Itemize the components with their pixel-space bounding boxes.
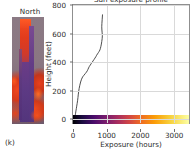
thermal-image xyxy=(12,17,44,124)
x-axis-label: Exposure (hours) xyxy=(72,140,190,149)
y-tick-mark xyxy=(70,33,73,34)
y-tick-label: 400 xyxy=(52,58,66,67)
x-gridline xyxy=(107,5,108,123)
y-tick-label: 200 xyxy=(52,86,66,95)
thermal-foreground-hotspots xyxy=(12,17,44,124)
y-tick-label: 800 xyxy=(52,1,66,10)
y-tick-mark xyxy=(70,90,73,91)
y-gridline xyxy=(73,62,189,63)
subfigure-label: (k) xyxy=(5,138,15,147)
y-gridline xyxy=(73,5,189,6)
x-gridline xyxy=(174,5,175,123)
x-tick-label: 1000 xyxy=(98,131,116,140)
y-gridline xyxy=(73,119,189,120)
photo-title: North xyxy=(0,7,60,16)
figure-panel-k: North (k) Sun exposure profile 010002000… xyxy=(0,0,195,158)
x-tick-label: 0 xyxy=(71,131,76,140)
x-tick-label: 2000 xyxy=(131,131,149,140)
y-tick-mark xyxy=(70,119,73,120)
y-axis-label: Height (feet) xyxy=(44,41,53,87)
y-gridline xyxy=(73,34,189,35)
sun-exposure-chart: Sun exposure profile 0100020003000020040… xyxy=(60,0,195,158)
y-tick-mark xyxy=(70,62,73,63)
x-tick-label: 3000 xyxy=(165,131,183,140)
x-gridline xyxy=(140,5,141,123)
y-tick-label: 0 xyxy=(61,115,66,124)
exposure-curve xyxy=(73,5,189,123)
plot-area: 01000200030000200400600800 xyxy=(72,4,190,124)
y-gridline xyxy=(73,91,189,92)
y-tick-mark xyxy=(70,5,73,6)
y-tick-label: 600 xyxy=(52,29,66,38)
